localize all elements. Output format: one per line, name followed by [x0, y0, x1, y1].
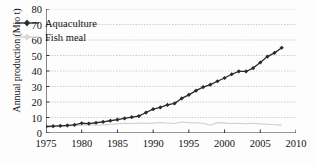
legend-label-aquaculture: Aquaculture: [45, 18, 97, 29]
data-point-marker: [208, 83, 212, 87]
data-point-marker: [94, 121, 98, 125]
data-point-marker: [58, 124, 62, 128]
legend-label-fish-meal: Fish meal: [45, 32, 86, 43]
legend-item-aquaculture: Aquaculture: [14, 16, 97, 30]
x-tick-label: 2010: [286, 138, 307, 149]
legend-marker-fish-meal-icon: [14, 32, 40, 42]
data-point-marker: [237, 69, 241, 73]
data-point-marker: [108, 119, 112, 123]
chart-legend: Aquaculture Fish meal: [14, 16, 97, 44]
data-point-marker: [137, 114, 141, 118]
y-tick-label: 10: [32, 112, 43, 123]
data-point-marker: [215, 79, 219, 83]
y-tick-label: 20: [32, 97, 43, 108]
x-tick-label: 1975: [36, 138, 57, 149]
data-point-marker: [65, 123, 69, 127]
data-point-marker: [244, 69, 248, 73]
data-point-marker: [101, 120, 105, 124]
data-point-marker: [165, 103, 169, 107]
chart-figure: Annual production (Mio t) 01020304050607…: [0, 0, 315, 165]
legend-item-fish-meal: Fish meal: [14, 30, 97, 44]
x-tick-label: 1980: [71, 138, 92, 149]
data-point-marker: [151, 107, 155, 111]
data-point-marker: [201, 85, 205, 89]
x-tick-label: 2005: [250, 138, 271, 149]
x-tick-label: 1995: [178, 138, 199, 149]
data-point-marker: [130, 115, 134, 119]
series-line: [46, 48, 282, 127]
x-tick-label: 1990: [143, 138, 164, 149]
y-tick-label: 40: [32, 66, 43, 77]
data-point-marker: [115, 118, 119, 122]
y-tick-label: 0: [37, 128, 42, 139]
data-point-marker: [72, 123, 76, 127]
y-tick-label: 80: [32, 4, 43, 15]
data-point-marker: [51, 124, 55, 128]
y-tick-label: 30: [32, 81, 43, 92]
x-tick-label: 1985: [107, 138, 128, 149]
series-aquaculture: [46, 46, 284, 129]
y-tick-label: 50: [32, 50, 43, 61]
data-point-marker: [122, 116, 126, 120]
data-point-marker: [158, 105, 162, 109]
x-tick-label: 2000: [214, 138, 235, 149]
legend-marker-aquaculture-icon: [14, 18, 40, 28]
data-point-marker: [144, 110, 148, 114]
